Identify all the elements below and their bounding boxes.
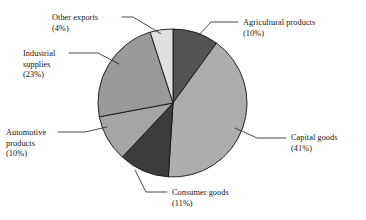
pie-label-agricultural-products-value: (10%)	[243, 29, 315, 40]
pie-label-industrial-supplies-title-line2: supplies	[23, 60, 55, 71]
pie-label-capital-goods: Capital goods (41%)	[291, 133, 338, 154]
pie-label-industrial-supplies-value: (23%)	[23, 70, 55, 81]
pie-label-consumer-goods-title: Consumer goods	[172, 188, 229, 199]
pie-slices-group	[98, 29, 247, 177]
pie-label-agricultural-products: Agricultural products (10%)	[243, 18, 315, 39]
pie-label-automotive-products-title-line2: products	[6, 139, 46, 150]
leader-line-agricultural-products	[198, 22, 238, 36]
pie-label-other-exports: Other exports (4%)	[52, 13, 98, 34]
pie-label-automotive-products-title-line1: Automotive	[6, 128, 46, 139]
pie-label-consumer-goods: Consumer goods (11%)	[172, 188, 229, 209]
pie-label-industrial-supplies: Industrial supplies (23%)	[23, 49, 55, 81]
pie-label-capital-goods-value: (41%)	[291, 144, 338, 155]
pie-chart-figure: Other exports (4%) Industrial supplies (…	[0, 0, 366, 220]
pie-label-consumer-goods-value: (11%)	[172, 199, 229, 210]
pie-label-other-exports-title: Other exports	[52, 13, 98, 24]
leader-line-automotive-products	[58, 127, 107, 132]
pie-label-other-exports-value: (4%)	[52, 24, 98, 35]
pie-label-capital-goods-title: Capital goods	[291, 133, 338, 144]
pie-label-agricultural-products-title: Agricultural products	[243, 18, 315, 29]
leader-line-capital-goods	[235, 128, 286, 138]
pie-label-industrial-supplies-title-line1: Industrial	[23, 49, 55, 60]
pie-label-automotive-products: Automotive products (10%)	[6, 128, 46, 160]
pie-label-automotive-products-value: (10%)	[6, 149, 46, 160]
